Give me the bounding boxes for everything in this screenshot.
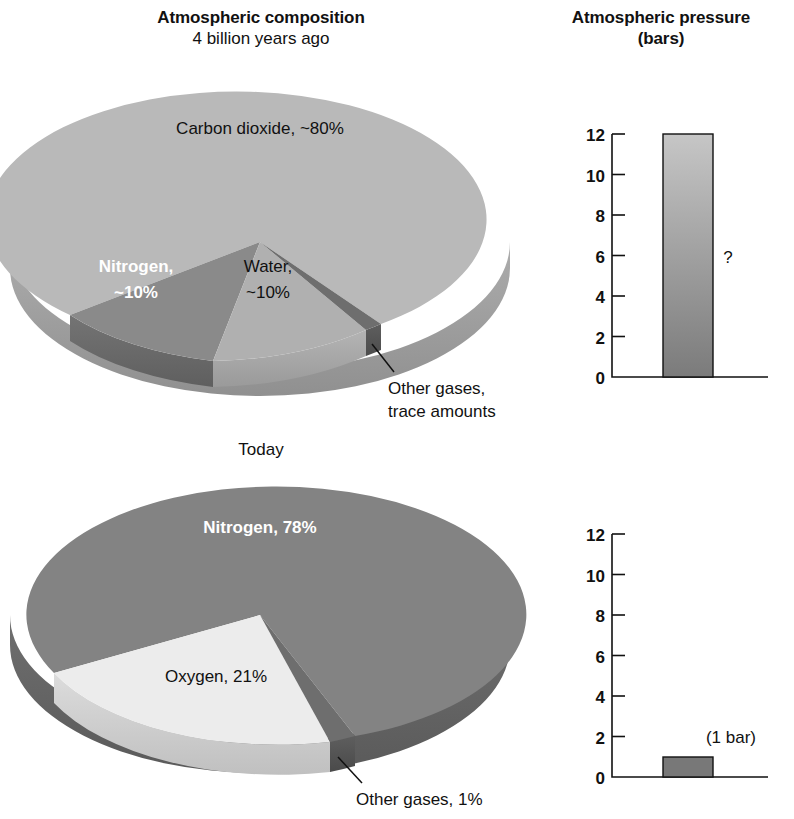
page-subtitle: 4 billion years ago (36, 29, 486, 50)
bar-ytick-6-past: 6 (596, 248, 605, 267)
bar-ytick-2-past: 2 (596, 329, 605, 348)
bar-ytick-8-past: 8 (596, 207, 605, 226)
bar-annotation-past: ? (723, 248, 732, 267)
pie-label-other-gases-today: Other gases, 1% (356, 790, 483, 809)
bar-ytick-6-today: 6 (596, 648, 605, 667)
pie-slice-other-wall-today (330, 736, 355, 772)
pie-chart-4-billion-years-ago: Carbon dioxide, ~80% Nitrogen, ~10% Wate… (0, 72, 520, 422)
today-title: Today (36, 440, 486, 461)
pie-label-water-line2: ~10% (246, 283, 290, 302)
pie-label-carbon-dioxide: Carbon dioxide, ~80% (176, 119, 344, 138)
bar-value-past (663, 134, 713, 377)
bar-ytick-12-past: 12 (586, 126, 605, 145)
pie-label-other-gases-line1: Other gases, (388, 379, 485, 398)
bar-ytick-12-today: 12 (586, 526, 605, 545)
pie-label-water-line1: Water, (244, 257, 293, 276)
bar-ytick-4-past: 4 (596, 288, 606, 307)
left-column-header: Atmospheric composition 4 billion years … (36, 8, 486, 49)
bar-ytick-8-today: 8 (596, 607, 605, 626)
pie-chart-today: Nitrogen, 78% Oxygen, 21% Other gases, 1… (0, 465, 520, 819)
bar-ytick-0-past: 0 (596, 369, 605, 388)
pressure-title: Atmospheric pressure (536, 8, 786, 29)
bar-annotation-today: (1 bar) (706, 728, 756, 747)
bar-chart-pressure-past: 12 10 8 6 4 2 0 ? (560, 100, 794, 400)
pie-label-nitrogen-line2: ~10% (114, 283, 158, 302)
pie-label-other-gases-line2: trace amounts (388, 402, 496, 421)
figure-root: Atmospheric composition 4 billion years … (0, 0, 794, 819)
bar-ytick-0-today: 0 (596, 769, 605, 788)
bar-axis-ticks-today (612, 534, 625, 737)
pie-label-nitrogen-today: Nitrogen, 78% (203, 518, 316, 537)
bar-ytick-10-past: 10 (586, 167, 605, 186)
bar-axis-ticks-past (612, 134, 625, 337)
bar-chart-pressure-today: 12 10 8 6 4 2 0 (1 bar) (560, 500, 794, 800)
page-title: Atmospheric composition (36, 8, 486, 29)
pie-label-oxygen: Oxygen, 21% (165, 667, 267, 686)
pie-label-nitrogen-line1: Nitrogen, (99, 257, 174, 276)
bar-ytick-2-today: 2 (596, 729, 605, 748)
today-header: Today (36, 440, 486, 461)
right-column-header: Atmospheric pressure (bars) (536, 8, 786, 49)
pressure-subtitle: (bars) (536, 29, 786, 50)
bar-ytick-4-today: 4 (596, 688, 606, 707)
bar-ytick-10-today: 10 (586, 567, 605, 586)
bar-value-today (663, 757, 713, 777)
